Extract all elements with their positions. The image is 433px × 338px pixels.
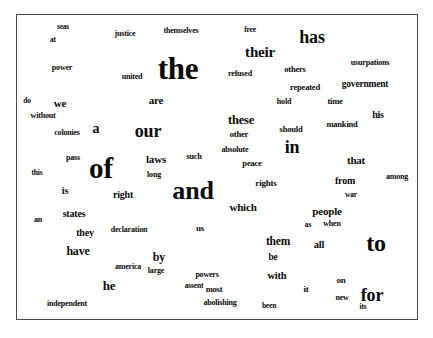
wordcloud-page: seasatjusticethemselvesfreehastheirthepo… bbox=[0, 0, 433, 338]
cloud-word: it bbox=[303, 285, 308, 294]
cloud-word: states bbox=[63, 209, 86, 219]
cloud-word: as bbox=[305, 221, 311, 229]
cloud-word: to bbox=[366, 231, 386, 255]
cloud-word: hold bbox=[277, 98, 291, 106]
cloud-word: refused bbox=[228, 70, 252, 78]
cloud-word: our bbox=[135, 122, 161, 140]
cloud-word: from bbox=[335, 176, 355, 186]
cloud-word: government bbox=[342, 80, 389, 90]
cloud-word: its bbox=[360, 303, 367, 311]
cloud-word: independent bbox=[47, 300, 87, 308]
cloud-word: repeated bbox=[290, 83, 320, 92]
cloud-word: by bbox=[153, 251, 165, 263]
cloud-word: are bbox=[149, 95, 163, 106]
cloud-word: have bbox=[66, 245, 89, 257]
cloud-word: they bbox=[76, 228, 94, 238]
cloud-word: these bbox=[228, 114, 254, 127]
cloud-word: should bbox=[280, 125, 303, 134]
cloud-word: long bbox=[147, 171, 161, 179]
wordcloud-frame: seasatjusticethemselvesfreehastheirthepo… bbox=[16, 14, 418, 320]
cloud-word: we bbox=[54, 98, 66, 109]
cloud-word: abolishing bbox=[203, 299, 236, 307]
cloud-word: others bbox=[284, 65, 305, 74]
cloud-word: themselves bbox=[164, 27, 199, 35]
cloud-word: without bbox=[31, 112, 56, 120]
cloud-word: declaration bbox=[111, 226, 147, 234]
cloud-word: rights bbox=[255, 179, 276, 188]
cloud-word: pass bbox=[66, 154, 80, 162]
cloud-word: has bbox=[299, 28, 324, 46]
cloud-word: is bbox=[62, 186, 68, 196]
cloud-word: the bbox=[158, 53, 199, 84]
cloud-word: them bbox=[266, 236, 290, 248]
cloud-word: their bbox=[245, 45, 275, 60]
cloud-word: war bbox=[345, 191, 357, 199]
cloud-word: usurpations bbox=[351, 59, 389, 67]
cloud-word: such bbox=[186, 152, 202, 161]
cloud-word: peace bbox=[242, 159, 261, 168]
cloud-word: he bbox=[103, 279, 116, 292]
cloud-word: powers bbox=[195, 271, 218, 279]
cloud-word: his bbox=[372, 110, 384, 120]
cloud-word: all bbox=[314, 240, 325, 251]
cloud-word: an bbox=[34, 216, 42, 224]
cloud-word: that bbox=[347, 155, 365, 166]
cloud-word: absolute bbox=[222, 146, 249, 154]
cloud-word: a bbox=[93, 122, 100, 136]
cloud-word: america bbox=[115, 263, 141, 271]
cloud-word: people bbox=[312, 206, 341, 217]
cloud-word: which bbox=[229, 202, 256, 213]
cloud-word: when bbox=[323, 220, 340, 228]
cloud-word: other bbox=[230, 130, 248, 139]
cloud-word: been bbox=[262, 302, 276, 310]
cloud-word: mankind bbox=[326, 120, 357, 129]
cloud-word: large bbox=[148, 267, 164, 275]
cloud-word: do bbox=[23, 97, 31, 105]
cloud-word: assent bbox=[185, 282, 203, 290]
cloud-word: laws bbox=[146, 154, 166, 165]
cloud-word: at bbox=[50, 36, 56, 44]
cloud-word: power bbox=[52, 64, 72, 72]
cloud-word: with bbox=[267, 271, 286, 282]
cloud-word: us bbox=[196, 224, 204, 233]
cloud-word: and bbox=[172, 178, 213, 204]
cloud-word: united bbox=[122, 73, 143, 81]
cloud-word: most bbox=[206, 285, 223, 294]
cloud-word: time bbox=[327, 97, 342, 106]
cloud-word: of bbox=[89, 154, 113, 183]
cloud-word: right bbox=[113, 190, 133, 200]
cloud-word: in bbox=[285, 138, 300, 156]
cloud-word: this bbox=[32, 169, 43, 177]
cloud-word: be bbox=[268, 253, 277, 263]
cloud-word: justice bbox=[115, 30, 136, 38]
cloud-word: on bbox=[336, 276, 345, 285]
cloud-word: new bbox=[335, 294, 348, 302]
cloud-word: colonies bbox=[54, 129, 80, 137]
cloud-word: seas bbox=[57, 23, 69, 31]
cloud-word: among bbox=[386, 173, 408, 181]
cloud-word: free bbox=[244, 26, 256, 34]
